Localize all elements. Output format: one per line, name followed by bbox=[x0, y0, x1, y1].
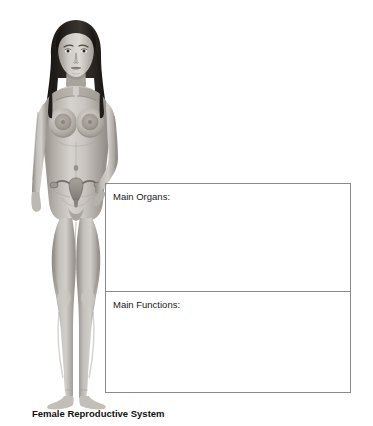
hand-left bbox=[31, 192, 41, 212]
leg-right bbox=[76, 218, 100, 398]
leg-left bbox=[52, 218, 76, 398]
main-organs-label: Main Organs: bbox=[113, 191, 170, 203]
knee-right bbox=[81, 289, 95, 307]
main-organs-answer[interactable] bbox=[113, 206, 344, 287]
main-functions-cell[interactable]: Main Functions: bbox=[106, 292, 350, 394]
main-functions-label: Main Functions: bbox=[113, 299, 180, 311]
knee-left bbox=[57, 289, 71, 307]
nipple-left bbox=[61, 120, 65, 124]
main-organs-cell[interactable]: Main Organs: bbox=[106, 184, 350, 292]
worksheet-page: Main Organs: Main Functions: Female Repr… bbox=[0, 0, 373, 426]
pupil-right bbox=[83, 50, 86, 53]
answer-table: Main Organs: Main Functions: bbox=[105, 183, 351, 393]
pupil-left bbox=[67, 50, 70, 53]
figure-caption: Female Reproductive System bbox=[32, 408, 165, 420]
navel bbox=[74, 165, 78, 171]
cervix bbox=[74, 199, 78, 207]
ovary-left bbox=[50, 182, 58, 188]
inner-thigh-gap bbox=[75, 222, 76, 270]
main-functions-answer[interactable] bbox=[113, 314, 344, 390]
nipple-right bbox=[88, 120, 92, 124]
